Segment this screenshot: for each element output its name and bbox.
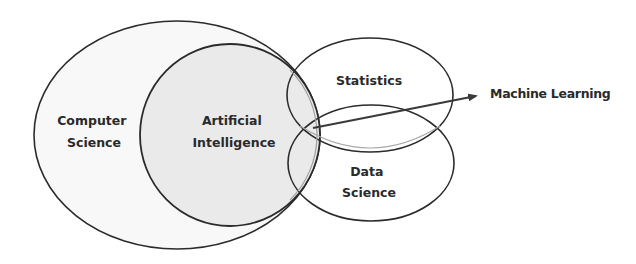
computer-science-label-line1: Computer — [57, 113, 127, 128]
statistics-label-line1: Statistics — [336, 73, 402, 88]
artificial-intelligence-label-line1: Artificial — [202, 113, 262, 128]
statistics-set — [287, 38, 453, 152]
data-science-label-line2: Science — [342, 185, 396, 200]
computer-science-label-line2: Science — [67, 135, 121, 150]
venn-diagram: Computer Science Artificial Intelligence… — [0, 0, 636, 264]
artificial-intelligence-label-line2: Intelligence — [192, 135, 275, 150]
data-science-label: Data Science — [342, 164, 396, 200]
statistics-boundary-overlap — [300, 126, 440, 148]
machine-learning-label: Machine Learning — [490, 86, 610, 101]
statistics-label: Statistics — [336, 73, 402, 88]
machine-learning-arrow — [313, 96, 476, 128]
data-science-label-line1: Data — [350, 164, 383, 179]
